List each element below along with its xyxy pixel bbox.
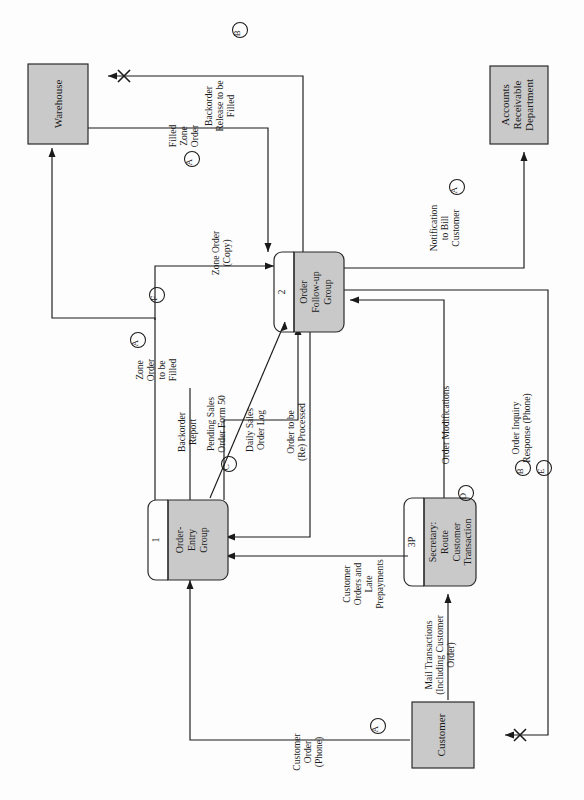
- process-1-label-2: Entry: [186, 529, 197, 551]
- flow-zone-order-filled-line2: Order: [145, 358, 156, 381]
- flow-label-pending-sales: Pending Sales Order Form 50 C: [205, 395, 237, 471]
- flow-notification-line1: Notification: [428, 205, 439, 252]
- flow-filled-zone-order-line1: Filled: [167, 125, 178, 148]
- process-3p-label-1: Secretary:: [427, 522, 438, 563]
- flow-order-reprocessed-line1: Order to be: [285, 410, 296, 454]
- process-3p-label-3: Customer: [451, 522, 462, 562]
- entity-customer-label: Customer: [435, 713, 447, 756]
- marker-d-label-order-modifications: D: [458, 492, 468, 499]
- flow-notification-line2: to Bill: [439, 216, 450, 241]
- flow-order-inquiry-line2: Response (Phone): [521, 393, 533, 463]
- flow-label-filled-zone-order: Filled Zone Order A: [167, 124, 200, 166]
- flow-label-order-modifications: Order Modifications D: [440, 385, 474, 500]
- flow-filled-zone-order-line3: Order: [189, 124, 200, 147]
- process-3p-secretary-route-customer-transaction[interactable]: 3P Secretary: Route Customer Transaction: [404, 498, 476, 586]
- flow-daily-sales-line1: Daily Sales: [244, 408, 255, 452]
- flow-zone-order-to-be-filled-line: [49, 148, 156, 500]
- diagram-canvas: Warehouse Accounts Receivable Department…: [0, 0, 584, 800]
- process-3p-label-2: Route: [439, 529, 450, 553]
- flow-backorder-report-line1: Backorder: [176, 411, 187, 452]
- process-2-label-2: Follow-up: [310, 271, 321, 313]
- process-1-label-3: Group: [198, 527, 209, 553]
- flow-zone-order-copy-line1: Zone Order: [210, 230, 221, 275]
- flow-backorder-release-line3: Filled: [225, 95, 236, 118]
- process-2-label-3: Group: [322, 279, 333, 305]
- dfd-svg: Warehouse Accounts Receivable Department…: [0, 0, 584, 800]
- flow-customer-orders-line3: Late: [363, 575, 374, 592]
- flow-label-order-inquiry-response: Order Inquiry Response (Phone) B E: [510, 393, 552, 475]
- flow-label-order-reprocessed: Order to be (Re) Processed: [285, 403, 308, 461]
- process-1-label-1: Order-: [174, 527, 185, 553]
- flow-order-modifications-line1: Order Modifications: [440, 385, 451, 464]
- flow-label-customer-order-phone: Customer Order (Phone) A: [291, 719, 386, 771]
- flow-daily-sales-line2: Order Log: [255, 410, 266, 450]
- marker-a-label-notification: A: [449, 186, 459, 193]
- flow-order-inquiry-line1: Order Inquiry: [510, 401, 521, 454]
- flow-backorder-release-line1: Backorder: [203, 85, 214, 126]
- entity-customer[interactable]: Customer: [412, 702, 474, 768]
- flow-customer-order-phone-line3: (Phone): [313, 737, 325, 767]
- process-2-order-follow-up-group[interactable]: 2 Order Follow-up Group: [274, 252, 344, 332]
- flow-zone-order-filled-line3: to be: [156, 361, 167, 380]
- flow-pending-sales-line2: Order Form 50: [216, 395, 227, 453]
- flow-customer-order-phone-line1: Customer: [291, 733, 302, 771]
- entity-accounts-receivable-label-2: Receivable: [511, 80, 523, 129]
- process-2-number: 2: [276, 290, 287, 295]
- marker-c-label-pending-sales: C: [221, 464, 231, 470]
- process-1-number: 1: [150, 538, 161, 543]
- flow-backorder-report-line2: Report: [187, 419, 198, 445]
- marker-a-label-filled-zone: A: [184, 158, 194, 165]
- flow-label-backorder-release: Backorder Release to be Filled B: [203, 23, 248, 132]
- flow-zone-order-filled-line1: Zone: [134, 360, 145, 380]
- flow-backorder-release-line2: Release to be: [214, 80, 225, 131]
- flow-order-modifications-line: [350, 297, 444, 499]
- flow-mail-transactions-line1: Mail Transactions: [423, 620, 434, 689]
- entity-warehouse[interactable]: Warehouse: [28, 64, 88, 144]
- flow-mail-transactions-line3: Order): [445, 642, 457, 668]
- process-2-label-1: Order: [298, 280, 309, 304]
- entity-accounts-receivable-label-3: Department: [523, 79, 535, 131]
- flow-customer-orders-line2: Orders and: [352, 563, 363, 606]
- flow-label-backorder-report: Backorder Report: [176, 411, 198, 452]
- marker-a-label-customer-order: A: [370, 725, 380, 732]
- flow-pending-sales-line1: Pending Sales: [205, 397, 216, 451]
- process-3p-number: 3P: [406, 536, 417, 547]
- entity-accounts-receivable[interactable]: Accounts Receivable Department: [490, 66, 548, 144]
- flow-label-customer-orders-late: Customer Orders and Late Prepayments: [341, 559, 385, 609]
- flow-customer-orders-line1: Customer: [341, 565, 352, 603]
- flow-label-zone-order-copy: Zone Order (Copy): [210, 230, 233, 275]
- flow-label-mail-transactions: Mail Transactions (Including Customer Or…: [423, 614, 457, 694]
- flow-zone-order-filled-line4: Filled: [167, 359, 178, 382]
- flow-label-zone-order-to-be-filled: Zone Order to be Filled A F: [130, 288, 178, 382]
- flow-zone-order-copy-line2: (Copy): [221, 239, 233, 266]
- flow-customer-order-phone-line2: Order: [302, 740, 313, 763]
- process-3p-label-4: Transaction: [462, 519, 473, 566]
- marker-a-label-zone-order: A: [130, 339, 140, 346]
- marker-b-label-order-inquiry: B: [515, 468, 525, 474]
- flow-filled-zone-order-line2: Zone: [178, 126, 189, 146]
- flow-notification-line3: Customer: [450, 209, 461, 247]
- flow-order-reprocessed-line2: (Re) Processed: [296, 403, 308, 461]
- process-1-order-entry-group[interactable]: 1 Order- Entry Group: [148, 500, 228, 580]
- entity-warehouse-label: Warehouse: [52, 80, 64, 129]
- entity-accounts-receivable-label-1: Accounts: [499, 84, 511, 126]
- marker-f-label-zone-order: F: [149, 296, 159, 301]
- marker-e-label-order-inquiry: E: [536, 468, 546, 474]
- flow-customer-orders-late-line: [226, 553, 408, 560]
- flow-customer-orders-line4: Prepayments: [374, 559, 385, 609]
- marker-b-label-backorder: B: [232, 30, 242, 36]
- flow-label-daily-sales-log: Daily Sales Order Log: [244, 408, 266, 452]
- flow-label-notification-to-bill: Notification to Bill Customer A: [428, 180, 465, 252]
